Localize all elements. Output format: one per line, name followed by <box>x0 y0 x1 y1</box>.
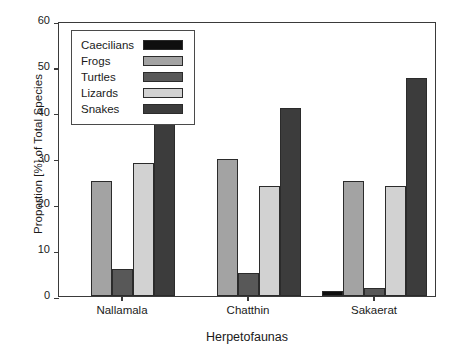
bar-frogs-sakaerat <box>343 181 364 296</box>
bar-snakes-chatthin <box>280 108 301 296</box>
x-tick-mark <box>121 296 122 301</box>
y-tick-mark <box>54 298 59 299</box>
legend-item-turtles: Turtles <box>81 69 183 85</box>
bar-lizards-chatthin <box>259 186 280 296</box>
y-tick-mark <box>54 206 59 207</box>
y-tick-mark <box>54 23 59 24</box>
x-axis-title: Herpetofaunas <box>58 330 436 344</box>
x-tick-label: Sakaerat <box>314 304 434 316</box>
y-tick-label: 20 <box>38 198 50 209</box>
legend-item-snakes: Snakes <box>81 101 183 117</box>
legend-label: Caecilians <box>81 39 143 51</box>
legend: CaeciliansFrogsTurtlesLizardsSnakes <box>71 30 195 125</box>
plot-area: 0102030405060 NallamalaChatthinSakaerat … <box>58 22 436 297</box>
x-tick-label: Nallamala <box>62 304 182 316</box>
x-tick-mark <box>247 296 248 301</box>
x-tick-mark <box>373 296 374 301</box>
legend-label: Turtles <box>81 71 143 83</box>
legend-label: Frogs <box>81 55 143 67</box>
y-tick-label: 50 <box>38 61 50 72</box>
bar-snakes-nallamala <box>154 113 175 296</box>
legend-swatch-lizards <box>143 88 183 98</box>
legend-rows: CaeciliansFrogsTurtlesLizardsSnakes <box>81 37 183 117</box>
bar-snakes-sakaerat <box>406 78 427 296</box>
bar-frogs-chatthin <box>217 159 238 297</box>
bar-lizards-sakaerat <box>385 186 406 296</box>
bar-caecilians-sakaerat <box>322 291 343 296</box>
y-tick-label: 30 <box>38 153 50 164</box>
bar-turtles-sakaerat <box>364 288 385 296</box>
bar-turtles-chatthin <box>238 273 259 296</box>
bar-frogs-nallamala <box>91 181 112 296</box>
bar-chart-figure: Proportion [%] of Total Species 01020304… <box>0 0 458 360</box>
legend-swatch-frogs <box>143 56 183 66</box>
y-tick-mark <box>54 68 59 69</box>
y-tick-mark <box>54 114 59 115</box>
y-tick-mark <box>54 160 59 161</box>
legend-label: Snakes <box>81 103 143 115</box>
legend-swatch-turtles <box>143 72 183 82</box>
legend-item-frogs: Frogs <box>81 53 183 69</box>
legend-label: Lizards <box>81 87 143 99</box>
legend-item-caecilians: Caecilians <box>81 37 183 53</box>
x-tick-label: Chatthin <box>188 304 308 316</box>
y-tick-label: 60 <box>38 15 50 26</box>
y-tick-label: 40 <box>38 107 50 118</box>
y-tick-label: 10 <box>38 244 50 255</box>
bar-turtles-nallamala <box>112 269 133 297</box>
y-tick-label: 0 <box>44 290 50 301</box>
y-tick-mark <box>54 252 59 253</box>
bar-lizards-nallamala <box>133 163 154 296</box>
legend-swatch-caecilians <box>143 40 183 50</box>
legend-item-lizards: Lizards <box>81 85 183 101</box>
legend-swatch-snakes <box>143 104 183 114</box>
